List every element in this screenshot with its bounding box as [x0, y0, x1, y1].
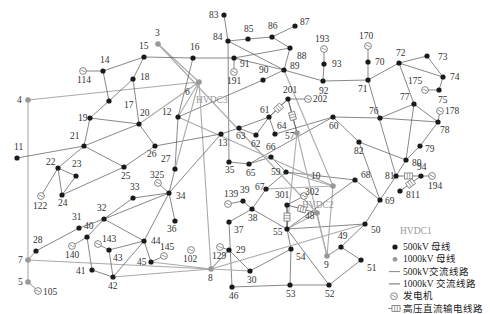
ac-line-52-51: [329, 260, 361, 285]
ac-line-19-20: [90, 118, 139, 124]
ac-line-41-42: [92, 270, 113, 277]
bus-500kv-301: [284, 202, 289, 207]
generator-label-170: 170: [359, 31, 374, 41]
bus-label-91: 91: [240, 59, 250, 69]
bus-500kv-11: [14, 155, 19, 160]
bus-500kv-15: [141, 54, 146, 59]
bus-500kv-33: [130, 195, 135, 200]
ac-lines-layer: [17, 15, 443, 287]
ac-line-79-78: [420, 122, 438, 146]
bus-label-73: 73: [438, 52, 448, 62]
bus-label-85: 85: [244, 24, 254, 34]
bus-500kv-25: [121, 164, 126, 169]
bus-label-9: 9: [324, 260, 329, 270]
bus-500kv-77: [411, 101, 416, 106]
generator-label-143: 143: [102, 234, 117, 244]
bus-label-70: 70: [375, 57, 385, 67]
generator-label-102: 102: [183, 254, 198, 264]
bus-label-90: 90: [259, 65, 269, 75]
bus-500kv-26: [152, 143, 157, 148]
ac-line-26-13: [155, 134, 221, 146]
bus-label-35: 35: [225, 165, 235, 175]
generator-icon-193: [321, 46, 328, 53]
bus-500kv-42: [110, 274, 115, 279]
bus-500kv-70: [365, 59, 370, 64]
bus-label-51: 51: [367, 263, 377, 273]
bus-500kv-54: [288, 246, 293, 251]
generator-label-191: 191: [227, 76, 242, 86]
ac-line-20-26: [139, 124, 155, 146]
bus-500kv-40: [84, 234, 89, 239]
generator-icon-194: [429, 173, 436, 180]
bus-1000kv-10: [330, 183, 336, 189]
ac-line-86-88: [272, 37, 290, 48]
bus-500kv-24: [59, 192, 64, 197]
bus-1000kv-4: [25, 97, 31, 103]
generator-label-145: 145: [160, 242, 175, 252]
hvdc1-label: HVDC1: [400, 226, 432, 236]
ac-line-40-41: [87, 237, 92, 270]
bus-label-12: 12: [162, 107, 172, 117]
bus-label-38: 38: [248, 213, 258, 223]
generator-icon-170: [365, 43, 372, 50]
bus-1000kv-57: [294, 130, 300, 136]
ac-line-64-61: [269, 117, 275, 134]
buses-layer: [14, 12, 445, 289]
bus-label-94: 94: [417, 162, 427, 172]
bus-500kv-811: [397, 188, 402, 193]
ac-line-55-50: [287, 224, 365, 229]
bus-500kv-43: [106, 247, 111, 252]
bus-label-37: 37: [234, 225, 244, 235]
bus-1000kv-5: [25, 279, 31, 285]
bus-label-67: 67: [255, 182, 265, 192]
legend: 500kV 母线1000kV 母线500kV交流线路1000kV 交流线路发电机…: [388, 241, 483, 314]
bus-500kv-87: [292, 23, 297, 28]
legend-label: 500kV 母线: [403, 241, 451, 252]
bus-500kv-60: [330, 114, 335, 119]
bus-500kv-13: [218, 131, 223, 136]
ac-line-84-83: [224, 15, 228, 41]
hvdc-converter-icon: [289, 111, 297, 120]
generator-icon-105: [35, 288, 42, 295]
ac-line-37-46: [229, 222, 232, 287]
bus-1000kv-8: [208, 266, 214, 272]
bus-label-60: 60: [329, 121, 339, 131]
legend-item-line500: 500kV交流线路: [389, 266, 469, 277]
bus-label-24: 24: [58, 198, 68, 208]
generator-label-194: 194: [428, 181, 443, 191]
bus-500kv-79: [417, 143, 422, 148]
bus-500kv-92: [320, 78, 325, 83]
bus-500kv-30: [247, 268, 252, 273]
bus-500kv-35: [226, 159, 231, 164]
bus-500kv-52: [326, 282, 331, 287]
bus-label-66: 66: [266, 142, 276, 152]
bus-label-69: 69: [385, 196, 395, 206]
bus-500kv-31: [76, 225, 81, 230]
bus-500kv-20: [136, 121, 141, 126]
network-canvas: HVDC3HVDC2345678910485711121314151617181…: [0, 0, 490, 314]
bus-label-39: 39: [240, 185, 250, 195]
bus-1000kv-48: [314, 210, 320, 216]
bus-label-7: 7: [18, 255, 23, 265]
bus-500kv-28: [33, 248, 38, 253]
generator-label-202: 202: [313, 94, 328, 104]
bus-500kv-18: [130, 76, 135, 81]
bus-label-5: 5: [18, 277, 23, 287]
bus-label-811: 811: [406, 190, 420, 200]
bus-500kv-75: [436, 87, 441, 92]
bus-label-83: 83: [209, 10, 219, 20]
generator-icon-102: [188, 247, 195, 254]
bus-500kv-66: [268, 154, 273, 159]
bus-label-27: 27: [161, 154, 171, 164]
bus-label-63: 63: [236, 131, 246, 141]
bus-label-33: 33: [130, 182, 140, 192]
bus-label-53: 53: [286, 289, 296, 299]
bus-label-21: 21: [70, 131, 80, 141]
bus-1000kv-icon: [393, 257, 398, 262]
bus-500kv-82: [356, 139, 361, 144]
ac-line-61-63: [239, 117, 269, 128]
bus-500kv-19: [87, 115, 92, 120]
legend-item-generator: 发电机: [391, 290, 433, 301]
bus-label-81: 81: [385, 171, 395, 181]
generator-icon-140: [69, 243, 76, 250]
